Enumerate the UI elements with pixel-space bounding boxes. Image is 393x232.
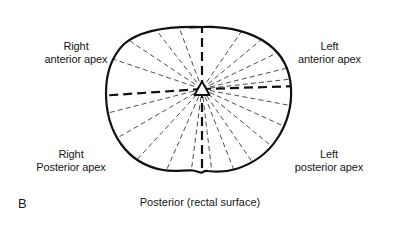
spoke xyxy=(202,7,258,89)
spoke xyxy=(143,13,202,89)
spoke xyxy=(132,89,202,165)
spoke xyxy=(112,89,202,141)
label-right-posterior-apex-line2: Posterior apex xyxy=(6,161,136,174)
spoke xyxy=(170,3,202,89)
superior-pole-flattening xyxy=(190,27,212,28)
axis-line-left-lateral xyxy=(98,89,202,96)
label-right-anterior-apex-line1: Right xyxy=(16,40,136,53)
label-right-anterior-apex: Right anterior apex xyxy=(16,40,136,66)
spoke xyxy=(100,89,202,115)
figure-caption: Posterior (rectal surface) xyxy=(100,196,300,209)
axis-line-right-lateral xyxy=(202,86,300,89)
label-left-posterior-apex-line2: posterior apex xyxy=(268,161,390,174)
label-right-anterior-apex-line2: anterior apex xyxy=(16,53,136,66)
label-left-posterior-apex: Left posterior apex xyxy=(268,148,390,174)
label-left-anterior-apex-line2: anterior apex xyxy=(272,53,387,66)
label-left-anterior-apex-line1: Left xyxy=(272,40,387,53)
label-left-anterior-apex: Left anterior apex xyxy=(272,40,387,66)
spoke xyxy=(202,89,325,112)
label-left-posterior-apex-line1: Left xyxy=(268,148,390,161)
label-right-posterior-apex: Right Posterior apex xyxy=(6,148,136,174)
spoke xyxy=(202,89,266,182)
figure-panel: Right anterior apex Left anterior apex R… xyxy=(0,0,393,232)
label-right-posterior-apex-line1: Right xyxy=(6,148,136,161)
panel-letter: B xyxy=(18,196,27,211)
